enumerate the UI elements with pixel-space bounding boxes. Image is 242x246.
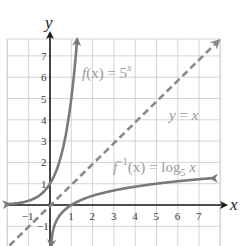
exp-f-exponent: x bbox=[126, 62, 132, 73]
x-axis-label: x bbox=[229, 195, 238, 214]
exp-function-label: f(x) = 5x bbox=[82, 62, 132, 82]
y-tick-label: 5 bbox=[41, 93, 47, 105]
function-graph: −11234567−11234567 y x f(x) = 5x y = x f… bbox=[0, 0, 242, 246]
x-tick-label: −1 bbox=[22, 210, 34, 222]
x-tick-label: 2 bbox=[90, 210, 96, 222]
y-tick-label: 7 bbox=[41, 50, 47, 62]
y-tick-label: −1 bbox=[37, 220, 49, 232]
x-tick-label: 5 bbox=[154, 210, 160, 222]
y-tick-label: 3 bbox=[41, 135, 47, 147]
identity-eq: = bbox=[176, 107, 192, 123]
x-tick-label: 4 bbox=[132, 210, 138, 222]
log-function-label: f−1(x) = log5 x bbox=[113, 156, 196, 178]
exp-f-arg: (x) = 5 bbox=[86, 65, 127, 82]
y-axis-label: y bbox=[43, 13, 53, 32]
x-tick-label: 6 bbox=[175, 210, 181, 222]
y-tick-label: 4 bbox=[41, 114, 47, 126]
log-f-arg: (x) = log bbox=[128, 159, 181, 176]
y-tick-label: 1 bbox=[41, 178, 47, 190]
x-tick-label: 7 bbox=[196, 210, 202, 222]
identity-label: y = x bbox=[167, 107, 199, 123]
log-var: x bbox=[185, 159, 196, 175]
x-tick-label: 3 bbox=[111, 210, 117, 222]
identity-x: x bbox=[191, 107, 199, 123]
y-tick-label: 6 bbox=[41, 71, 47, 83]
x-tick-label: 1 bbox=[68, 210, 74, 222]
y-tick-label: 2 bbox=[41, 156, 47, 168]
log-f-inverse-sup: −1 bbox=[117, 156, 128, 167]
identity-y: y bbox=[167, 107, 176, 123]
